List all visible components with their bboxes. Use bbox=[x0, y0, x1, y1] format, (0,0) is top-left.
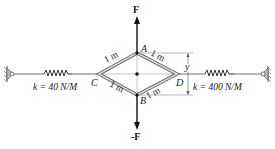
right-pin-support bbox=[261, 66, 271, 82]
force-bottom-label: -F bbox=[131, 131, 140, 142]
length-label-cb: 1 m bbox=[108, 79, 126, 95]
center-point bbox=[135, 72, 139, 76]
left-spring-label: k = 40 N/M bbox=[33, 82, 78, 92]
label-d: D bbox=[175, 77, 184, 88]
label-b: B bbox=[140, 95, 146, 106]
left-spring bbox=[14, 70, 99, 76]
right-spring-label: k = 400 N/M bbox=[193, 82, 243, 92]
dimension-y-label: y bbox=[184, 61, 190, 72]
force-top-label: F bbox=[133, 4, 139, 15]
rhombus-spring-diagram: F -F A B C D 1 m 1 m 1 m 1 m y k = 40 N/… bbox=[0, 0, 275, 149]
left-pin-support bbox=[4, 66, 14, 82]
length-label-bd: 1 m bbox=[144, 85, 162, 101]
force-up-arrow bbox=[134, 16, 140, 53]
label-a: A bbox=[140, 43, 148, 54]
right-spring bbox=[177, 70, 262, 76]
label-c: C bbox=[91, 77, 98, 88]
